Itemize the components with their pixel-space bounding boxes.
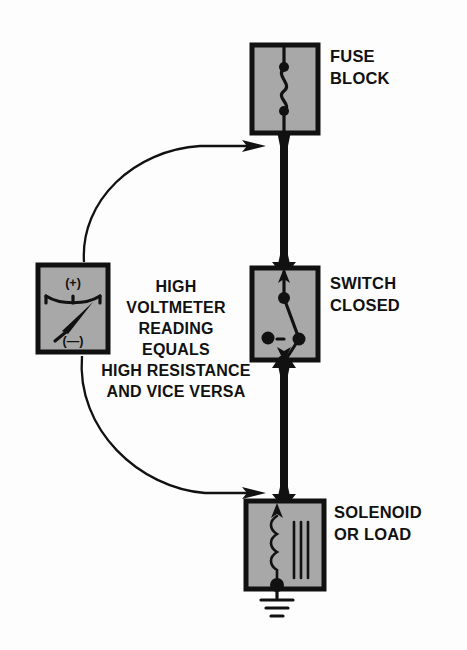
center-note: HIGH VOLTMETER READING EQUALS HIGH RESIS…	[101, 278, 251, 400]
upper-probe-arrow	[84, 140, 266, 262]
solenoid-component[interactable]: SOLENOID OR LOAD	[246, 494, 422, 592]
fuse-terminal-top-icon	[279, 62, 289, 72]
fuse-block-label-line2: BLOCK	[330, 69, 390, 87]
wire-fuse-to-switch	[277, 131, 291, 269]
switch-left-contact-icon	[262, 332, 275, 345]
fuse-terminal-bottom-icon	[279, 106, 289, 116]
upper-probe-curve	[84, 146, 250, 262]
voltmeter-positive-terminal-label: (+)	[65, 276, 81, 290]
fuse-block-component[interactable]: FUSE BLOCK	[252, 45, 390, 133]
center-note-line-1: HIGH	[156, 278, 197, 295]
diagram-canvas: FUSE BLOCK SWITCH CLOSED	[0, 0, 467, 650]
voltmeter-component[interactable]: (+) (—)	[38, 265, 108, 352]
switch-label-line1: SWITCH	[330, 274, 396, 292]
switch-component[interactable]: SWITCH CLOSED	[252, 262, 400, 368]
center-note-line-5: HIGH RESISTANCE	[101, 362, 251, 379]
solenoid-body	[246, 501, 324, 589]
wire-switch-to-solenoid	[277, 360, 291, 501]
solenoid-label-line1: SOLENOID	[334, 503, 422, 521]
center-note-line-4: EQUALS	[142, 341, 210, 358]
circuit-diagram: FUSE BLOCK SWITCH CLOSED	[0, 0, 467, 650]
center-note-line-2: VOLTMETER	[126, 299, 226, 316]
switch-label-line2: CLOSED	[330, 296, 400, 314]
solenoid-label-line2: OR LOAD	[334, 525, 411, 543]
fuse-block-label-line1: FUSE	[330, 47, 375, 65]
center-note-line-6: AND VICE VERSA	[107, 383, 246, 400]
voltmeter-negative-terminal-label: (—)	[63, 334, 84, 348]
center-note-line-3: READING	[138, 320, 213, 337]
